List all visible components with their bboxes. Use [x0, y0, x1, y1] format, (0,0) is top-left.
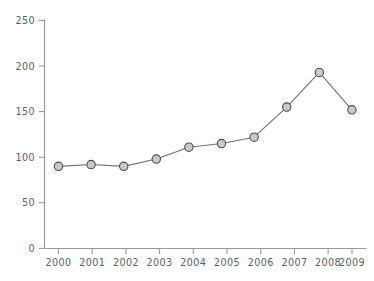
y-tick-label-200: 200 [15, 61, 35, 72]
x-tick-label-2007: 2007 [281, 257, 307, 268]
x-axis-ticks [59, 249, 353, 255]
data-series [54, 68, 356, 170]
data-point-2007 [283, 103, 291, 111]
x-axis-tick-labels: 2000 2001 2002 2003 2004 2005 2006 2007 … [45, 257, 365, 268]
x-tick-label-2009: 2009 [339, 257, 365, 268]
y-tick-label-150: 150 [15, 106, 35, 117]
data-point-2009 [348, 106, 356, 114]
y-tick-label-100: 100 [15, 152, 35, 163]
x-tick-label-2003: 2003 [147, 257, 173, 268]
y-tick-label-250: 250 [15, 15, 35, 26]
data-point-2003 [152, 155, 160, 163]
x-tick-label-2008: 2008 [315, 257, 341, 268]
series-markers [54, 68, 356, 170]
y-axis-tick-labels: 250 200 150 100 50 0 [15, 15, 35, 254]
x-tick-label-2001: 2001 [79, 257, 105, 268]
data-point-2000 [54, 162, 62, 170]
data-point-2006 [250, 133, 258, 141]
x-tick-label-2005: 2005 [214, 257, 240, 268]
y-axis-ticks [39, 21, 45, 249]
data-point-2001 [87, 160, 95, 168]
x-tick-label-2006: 2006 [248, 257, 274, 268]
y-axis: 250 200 150 100 50 0 [15, 15, 44, 254]
y-tick-label-50: 50 [22, 197, 35, 208]
x-tick-label-2002: 2002 [113, 257, 139, 268]
data-point-2004 [185, 143, 193, 151]
line-chart: 250 200 150 100 50 0 [0, 0, 374, 281]
x-axis: 2000 2001 2002 2003 2004 2005 2006 2007 … [45, 249, 367, 269]
x-tick-label-2004: 2004 [180, 257, 206, 268]
x-tick-label-2000: 2000 [45, 257, 71, 268]
chart-canvas: 250 200 150 100 50 0 [0, 0, 374, 281]
data-point-2002 [120, 162, 128, 170]
y-tick-label-0: 0 [28, 243, 35, 254]
data-point-2008 [315, 68, 323, 76]
series-line [59, 72, 352, 166]
data-point-2005 [217, 139, 225, 147]
